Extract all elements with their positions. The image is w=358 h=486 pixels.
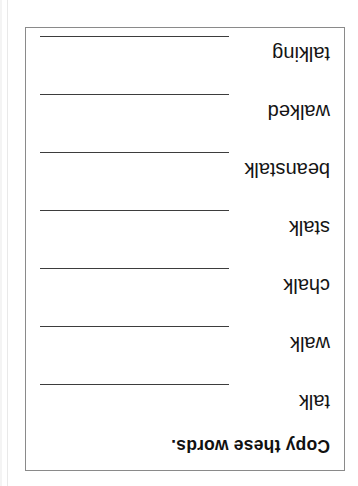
page-title: Copy these words.	[171, 435, 330, 456]
word-label: talking	[272, 42, 330, 65]
writing-line[interactable]	[40, 152, 229, 153]
worksheet-page: Copy these words. talk walk chalk stalk …	[25, 27, 345, 471]
writing-line[interactable]	[40, 210, 229, 211]
writing-line[interactable]	[40, 94, 229, 95]
word-label: walk	[290, 332, 330, 355]
table-row: beanstalk	[26, 131, 344, 189]
writing-line[interactable]	[40, 36, 229, 37]
word-label: chalk	[283, 274, 330, 297]
word-label: beanstalk	[244, 158, 330, 181]
word-label: walked	[268, 100, 330, 123]
scan-artifact-edge	[7, 0, 8, 486]
table-row: walk	[26, 305, 344, 363]
table-row: talking	[26, 15, 344, 73]
writing-line[interactable]	[40, 326, 229, 327]
word-label: talk	[299, 390, 330, 413]
table-row: talk	[26, 363, 344, 421]
table-row: stalk	[26, 189, 344, 247]
table-row: chalk	[26, 247, 344, 305]
table-row: walked	[26, 73, 344, 131]
writing-line[interactable]	[40, 384, 229, 385]
word-row-list: talk walk chalk stalk beanstalk walked	[26, 15, 344, 421]
scan-artifact-edge-outer	[0, 0, 2, 486]
writing-line[interactable]	[40, 268, 229, 269]
word-label: stalk	[289, 216, 330, 239]
worksheet-content: Copy these words. talk walk chalk stalk …	[26, 28, 344, 470]
